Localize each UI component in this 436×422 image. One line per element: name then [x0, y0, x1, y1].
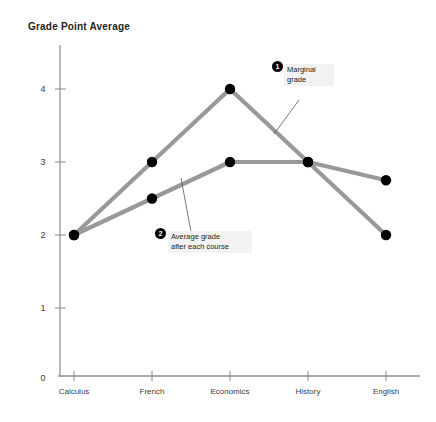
- y-tick-label-2: 2: [40, 230, 45, 240]
- y-tick-label-3: 3: [40, 157, 45, 167]
- x-tick-label-economics: Economics: [210, 387, 249, 396]
- leader-line-annotation-1: [274, 100, 299, 134]
- chart-container: Grade Point Average 4 3 2 1 0 Calculus: [0, 0, 436, 422]
- data-point: [303, 157, 313, 167]
- data-point: [381, 175, 391, 185]
- data-point: [147, 157, 157, 167]
- annotation-label-average-grade: Average grade after each course: [168, 231, 252, 253]
- data-point: [69, 230, 79, 240]
- x-tick-label-calculus: Calculus: [59, 387, 90, 396]
- y-tick-label-0: 0: [40, 373, 45, 383]
- annotation-badge-2[interactable]: 2: [155, 228, 166, 239]
- y-tick-label-1: 1: [40, 303, 45, 313]
- line-series-average-grade: [74, 162, 386, 235]
- leader-line-annotation-2: [181, 178, 191, 232]
- x-tick-label-history: History: [296, 387, 321, 396]
- data-point: [381, 230, 391, 240]
- x-tick-label-french: French: [140, 387, 165, 396]
- data-point: [225, 84, 235, 94]
- data-point: [225, 157, 235, 167]
- annotation-badge-1[interactable]: 1: [272, 61, 283, 72]
- data-point: [147, 193, 157, 203]
- x-tick-label-english: English: [373, 387, 399, 396]
- annotation-label-marginal-grade: Marginal grade: [284, 64, 334, 86]
- y-tick-label-4: 4: [40, 84, 45, 94]
- chart-plot-area: 4 3 2 1 0 Calculus French Economics Hist…: [0, 0, 436, 422]
